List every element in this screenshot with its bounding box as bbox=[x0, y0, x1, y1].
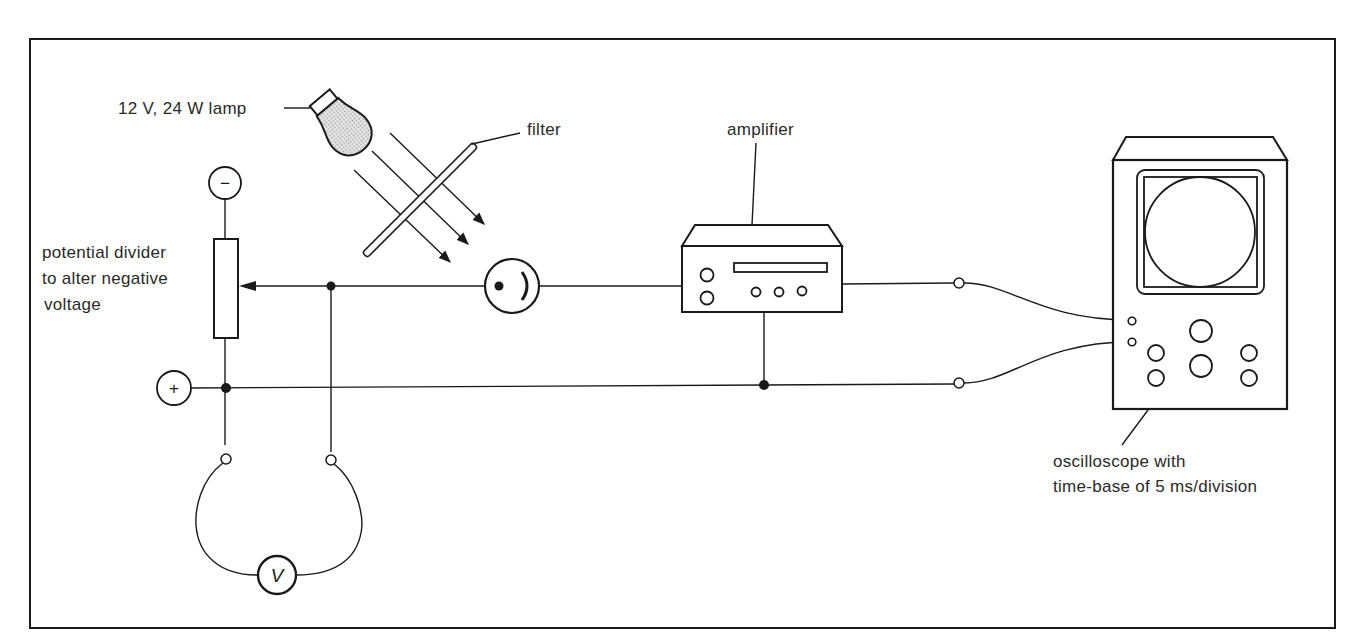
scope-knob bbox=[1190, 320, 1212, 342]
oscilloscope-label-line2: time-base of 5 ms/division bbox=[1053, 477, 1257, 496]
voltmeter-lead-left bbox=[196, 463, 257, 575]
photocell-icon bbox=[485, 259, 539, 313]
lamp-label: 12 V, 24 W lamp bbox=[118, 99, 247, 118]
divider-label-line2: to alter negative bbox=[42, 269, 168, 288]
scope-y-input bbox=[1128, 317, 1136, 325]
amplifier-label: amplifier bbox=[727, 120, 794, 139]
amplifier-icon bbox=[682, 225, 842, 312]
lamp-icon bbox=[303, 84, 380, 164]
plus-icon: + bbox=[169, 379, 179, 398]
scope-ground-lead bbox=[964, 342, 1130, 383]
oscilloscope-label-line1: oscilloscope with bbox=[1053, 452, 1186, 471]
scope-ground-terminal bbox=[954, 378, 964, 388]
voltmeter-lead-right bbox=[296, 464, 362, 575]
divider-label-line1: potential divider bbox=[42, 243, 166, 262]
scope-knob bbox=[1148, 345, 1164, 361]
voltmeter-terminal bbox=[326, 455, 336, 465]
filter-icon bbox=[362, 142, 477, 257]
filter-label: filter bbox=[527, 120, 561, 139]
potential-divider-resistor bbox=[214, 239, 238, 338]
positive-terminal: + bbox=[157, 371, 191, 405]
scope-knob bbox=[1241, 345, 1257, 361]
scope-knob bbox=[1190, 355, 1212, 377]
junction-dot bbox=[221, 383, 231, 393]
divider-label-line3: voltage bbox=[44, 295, 101, 314]
photoelectric-circuit-diagram: 12 V, 24 W lamp filter − potential divid… bbox=[0, 0, 1364, 643]
ground-rail bbox=[191, 384, 954, 388]
negative-terminal: − bbox=[209, 167, 241, 199]
scope-input-terminal bbox=[954, 278, 964, 288]
voltmeter-icon: V bbox=[258, 556, 296, 594]
scope-signal-lead bbox=[964, 283, 1130, 320]
oscilloscope-leader-line bbox=[1122, 410, 1148, 445]
amplifier-leader-line bbox=[752, 143, 756, 225]
filter-leader-line bbox=[472, 133, 520, 144]
scope-knob bbox=[1241, 370, 1257, 386]
scope-knob bbox=[1148, 370, 1164, 386]
scope-ground-input bbox=[1128, 338, 1136, 346]
slider-arrow-icon bbox=[239, 281, 256, 291]
oscilloscope-icon bbox=[1113, 137, 1287, 409]
minus-icon: − bbox=[220, 174, 230, 193]
